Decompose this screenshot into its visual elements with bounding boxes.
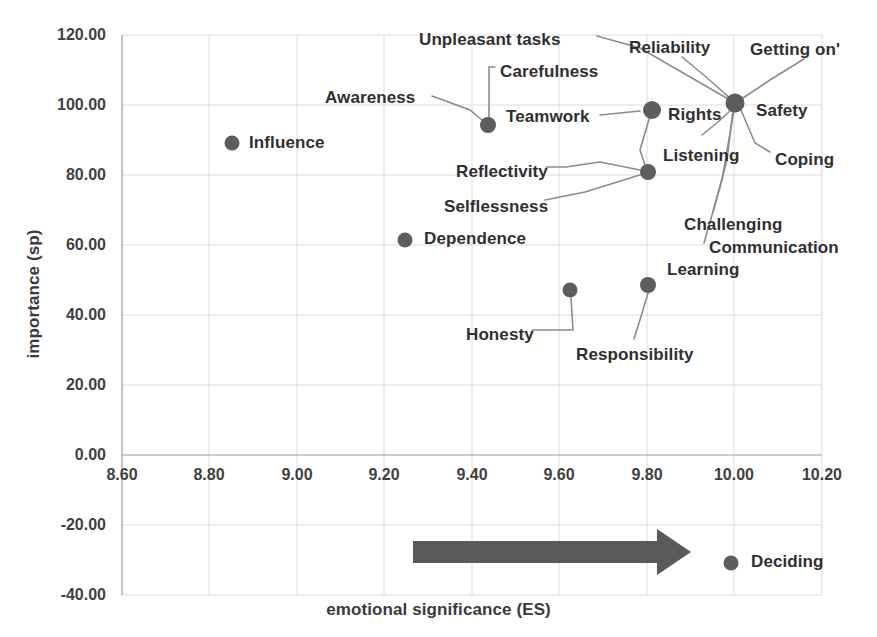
leader-responsibility (634, 293, 648, 339)
x-tick-label: 9.80 (602, 466, 692, 484)
point-label-awareness: Awareness (325, 88, 415, 108)
leader-teamwork (600, 111, 640, 115)
point-honesty (563, 283, 578, 298)
point-dependence (398, 233, 413, 248)
leader-reliability (682, 57, 732, 100)
x-tick-label: 8.80 (164, 466, 254, 484)
point-label-deciding: Deciding (751, 552, 824, 572)
x-tick-label: 10.00 (689, 466, 779, 484)
leader-honesty (532, 298, 573, 330)
x-axis-title: emotional significance (ES) (0, 600, 877, 620)
point-label-getting-on: Getting on' (750, 40, 840, 60)
point-label-teamwork: Teamwork (506, 107, 590, 127)
point-label-challenging: Challenging (684, 215, 782, 235)
x-tick-label: 9.20 (339, 466, 429, 484)
point-label-learning: Learning (667, 260, 740, 280)
point-teamwork (643, 101, 661, 119)
right-arrow-icon (413, 529, 691, 575)
point-label-communication: Communication (709, 238, 839, 258)
y-tick-label: 0.00 (10, 446, 106, 464)
x-tick-label: 9.40 (427, 466, 517, 484)
point-label-listening: Listening (663, 146, 739, 166)
point-label-carefulness: Carefulness (500, 62, 598, 82)
point-responsibility (640, 277, 656, 293)
leader-reflectivity (546, 162, 640, 170)
point-label-rights: Rights (668, 105, 721, 125)
point-influence (225, 136, 240, 151)
trend-arrow-annotation (413, 529, 691, 575)
x-tick-label: 9.60 (514, 466, 604, 484)
point-awareness (480, 117, 496, 133)
y-axis-title: importance (sp) (24, 164, 44, 424)
leader-lines (432, 36, 804, 339)
y-tick-label: -20.00 (10, 516, 106, 534)
point-label-reliability: Reliability (629, 38, 710, 58)
point-label-unpleasant-tasks: Unpleasant tasks (419, 30, 560, 50)
y-tick-label: 100.00 (10, 96, 106, 114)
y-tick-label: 120.00 (10, 26, 106, 44)
point-cluster-rights (726, 94, 745, 113)
point-label-responsibility: Responsibility (576, 345, 694, 365)
point-label-safety: Safety (756, 101, 808, 121)
x-tick-label: 10.20 (777, 466, 867, 484)
leader-selflessness (545, 174, 643, 200)
point-label-honesty: Honesty (466, 325, 534, 345)
x-tick-label: 8.60 (77, 466, 167, 484)
point-label-coping: Coping (775, 150, 834, 170)
scatter-chart: 120.00 100.00 80.00 60.00 40.00 20.00 0.… (0, 0, 877, 637)
point-reflectivity (640, 164, 656, 180)
point-deciding (724, 556, 739, 571)
x-tick-label: 9.00 (252, 466, 342, 484)
point-label-reflectivity: Reflectivity (456, 162, 548, 182)
leader-carefulness (489, 67, 495, 125)
leader-teamwork-lower (640, 116, 650, 168)
point-label-influence: Influence (249, 133, 325, 153)
point-label-dependence: Dependence (424, 229, 526, 249)
point-label-selflessness: Selflessness (444, 197, 548, 217)
leader-getting-on (740, 59, 804, 100)
plot-area (0, 0, 877, 637)
leader-awareness (432, 96, 488, 125)
